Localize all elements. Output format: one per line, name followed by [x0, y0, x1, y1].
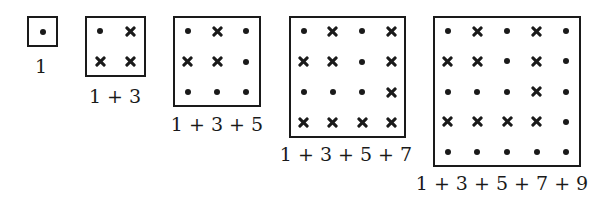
sum-label-5: 1 + 3 + 5 + 7 + 9 [416, 172, 588, 194]
cross-icon [125, 25, 137, 37]
dot-icon [356, 86, 368, 98]
dot-icon [94, 25, 106, 37]
dot-icon [442, 25, 454, 37]
cross-icon [471, 25, 483, 37]
dot-icon [442, 146, 454, 158]
dot-icon [356, 25, 368, 37]
sum-label-2: 1 + 3 [89, 85, 141, 107]
sum-label-3: 1 + 3 + 5 [171, 113, 263, 135]
dot-icon [560, 86, 572, 98]
cross-icon [356, 117, 368, 129]
cross-icon [211, 25, 223, 37]
dot-icon [298, 86, 310, 98]
sum-label-1: 1 [35, 55, 47, 77]
dot-icon [501, 146, 513, 158]
dot-icon [327, 86, 339, 98]
cross-icon [471, 116, 483, 128]
cross-icon [385, 117, 397, 129]
cross-icon [298, 56, 310, 68]
dot-icon [501, 25, 513, 37]
dot-icon [501, 55, 513, 67]
dot-icon [182, 25, 194, 37]
dot-icon [560, 116, 572, 128]
dot-icon [471, 146, 483, 158]
cross-icon [442, 116, 454, 128]
cross-icon [531, 25, 543, 37]
cross-icon [471, 55, 483, 67]
dot-icon [501, 86, 513, 98]
dot-icon [531, 146, 543, 158]
cross-icon [211, 56, 223, 68]
cross-icon [125, 56, 137, 68]
cross-icon [385, 25, 397, 37]
square-figure-1 [27, 16, 58, 47]
cross-icon [531, 55, 543, 67]
dot-icon [182, 86, 194, 98]
dot-icon [560, 55, 572, 67]
dot-icon [560, 25, 572, 37]
cross-icon [298, 117, 310, 129]
cross-icon [442, 55, 454, 67]
sum-label-4: 1 + 3 + 5 + 7 [280, 143, 412, 165]
square-figure-2 [85, 16, 146, 77]
cross-icon [182, 56, 194, 68]
dot-icon [471, 86, 483, 98]
cross-icon [385, 56, 397, 68]
cross-icon [385, 86, 397, 98]
cross-icon [327, 56, 339, 68]
dot-icon [211, 86, 223, 98]
cross-icon [94, 56, 106, 68]
cross-icon [327, 25, 339, 37]
square-figure-5 [433, 16, 581, 167]
dot-icon [240, 86, 252, 98]
dot-icon [298, 25, 310, 37]
cross-icon [531, 116, 543, 128]
cross-icon [531, 86, 543, 98]
square-figure-4 [289, 16, 406, 138]
dot-icon [356, 56, 368, 68]
square-figure-3 [173, 16, 261, 107]
cross-icon [327, 117, 339, 129]
dot-icon [442, 86, 454, 98]
dot-icon [240, 25, 252, 37]
dot-icon [560, 146, 572, 158]
dot-icon [240, 56, 252, 68]
cross-icon [501, 116, 513, 128]
dot-icon [37, 26, 49, 38]
